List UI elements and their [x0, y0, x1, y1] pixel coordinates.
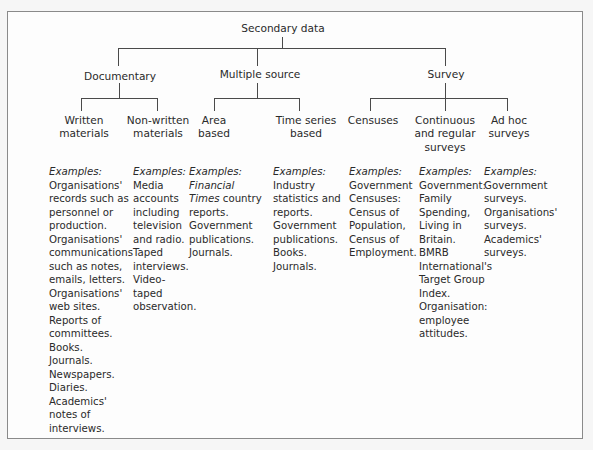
examples-time-series: Examples: Industry statistics and report… [273, 165, 341, 273]
examples-text: Media accounts including television and … [133, 179, 197, 314]
examples-non-written: Examples: Media accounts including telev… [133, 165, 197, 314]
connector [370, 98, 371, 111]
examples-written: Examples: Organisations' records such as… [49, 165, 133, 435]
node-documentary: Documentary [84, 70, 156, 83]
node-ad-hoc-surveys: Ad hoc surveys [488, 114, 529, 141]
connector [445, 48, 446, 66]
examples-continuous: Examples: Government: Family Spending, L… [419, 165, 492, 341]
connector [445, 83, 446, 111]
examples-label: Examples: [484, 165, 557, 179]
connector [81, 98, 158, 99]
connector [507, 98, 508, 111]
examples-text: Government Censuses: Census of Populatio… [349, 179, 417, 260]
connector [81, 98, 82, 111]
connector [118, 48, 446, 49]
connector [214, 98, 215, 111]
node-written-materials: Written materials [59, 114, 109, 141]
node-multiple-source: Multiple source [220, 68, 301, 81]
node-non-written-materials: Non-written materials [127, 114, 189, 141]
node-time-series-based: Time series based [276, 114, 337, 141]
connector [257, 83, 258, 98]
examples-text: Government: Family Spending, Living in B… [419, 179, 492, 341]
connector [299, 98, 300, 111]
connector [118, 48, 119, 66]
examples-text: Organisations' records such as personnel… [49, 179, 133, 436]
connector [370, 98, 508, 99]
connector [157, 98, 158, 111]
node-continuous-regular-surveys: Continuous and regular surveys [414, 114, 475, 154]
examples-label: Examples: [273, 165, 341, 179]
connector [257, 48, 258, 66]
examples-text: Government surveys. Organisations' surve… [484, 179, 557, 260]
node-area-based: Area based [198, 114, 230, 141]
connector [119, 83, 120, 98]
node-survey: Survey [428, 68, 465, 81]
connector [214, 98, 300, 99]
examples-label: Examples: [49, 165, 133, 179]
examples-label: Examples: [133, 165, 197, 179]
examples-censuses: Examples: Government Censuses: Census of… [349, 165, 417, 260]
examples-label: Examples: [419, 165, 492, 179]
examples-label: Examples: [349, 165, 417, 179]
examples-text: Industry statistics and reports. Governm… [273, 179, 341, 274]
examples-label: Examples: [189, 165, 262, 179]
node-censuses: Censuses [348, 114, 398, 127]
root-node: Secondary data [241, 22, 324, 35]
examples-area-based: Examples: Financial Times country report… [189, 165, 262, 260]
examples-ad-hoc: Examples: Government surveys. Organisati… [484, 165, 557, 260]
